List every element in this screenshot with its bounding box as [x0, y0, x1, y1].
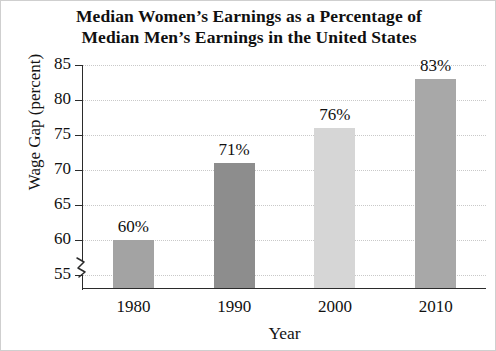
- chart-title-line-2: Median Men’s Earnings in the United Stat…: [1, 27, 496, 48]
- y-tick-mark: [75, 205, 83, 206]
- x-tick-label: 2000: [290, 297, 380, 317]
- bar[interactable]: [415, 79, 456, 289]
- bar[interactable]: [214, 163, 255, 289]
- x-tick-label: 2010: [391, 297, 481, 317]
- x-axis-line: [82, 288, 486, 289]
- y-tick-label: 80: [27, 89, 71, 109]
- bar-value-label: 71%: [189, 140, 279, 160]
- plot-area: 60%71%76%83%: [83, 65, 486, 289]
- bar-value-label: 83%: [391, 56, 481, 76]
- y-tick-label: 55: [27, 264, 71, 284]
- x-tick-label: 1980: [88, 297, 178, 317]
- y-axis-label: Wage Gap (percent): [25, 22, 45, 222]
- y-tick-label: 65: [27, 194, 71, 214]
- y-tick-label: 70: [27, 159, 71, 179]
- chart-title-line-1: Median Women’s Earnings as a Percentage …: [1, 6, 496, 27]
- y-tick-label: 75: [27, 124, 71, 144]
- bar[interactable]: [113, 240, 154, 289]
- chart-title: Median Women’s Earnings as a Percentage …: [1, 6, 496, 48]
- y-tick-mark: [75, 240, 83, 241]
- y-axis-line-upper: [82, 65, 83, 261]
- bar-value-label: 60%: [88, 217, 178, 237]
- x-tick-label: 1990: [189, 297, 279, 317]
- bar-value-label: 76%: [290, 105, 380, 125]
- y-tick-mark: [75, 135, 83, 136]
- y-tick-label: 60: [27, 229, 71, 249]
- y-tick-mark: [75, 65, 83, 66]
- y-tick-mark: [75, 100, 83, 101]
- x-axis-label: Year: [83, 323, 486, 344]
- y-tick-mark: [75, 170, 83, 171]
- y-tick-mark: [75, 275, 83, 276]
- bar[interactable]: [314, 128, 355, 289]
- chart-figure: Median Women’s Earnings as a Percentage …: [0, 0, 496, 351]
- y-tick-label: 85: [27, 54, 71, 74]
